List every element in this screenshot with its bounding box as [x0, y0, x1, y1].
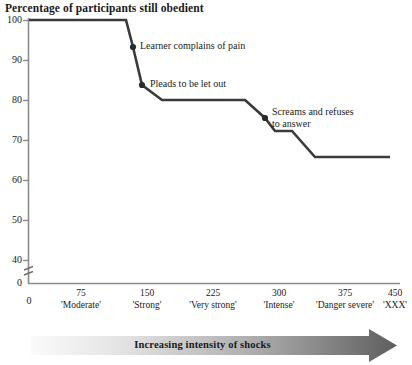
y-tick-label-50: 50	[0, 215, 22, 225]
y-tick-label-90: 90	[0, 55, 22, 65]
x-axis-origin-label: 0	[18, 296, 40, 306]
data-marker-pleads-to-be-let-out	[139, 82, 145, 88]
y-tick-label-80: 80	[0, 95, 22, 105]
x-tick-group-225: 225 'Very strong'	[178, 288, 248, 311]
x-tick-value-225: 225	[178, 288, 248, 300]
intensity-arrow-banner	[31, 329, 397, 362]
x-tick-name-intense: 'Intense'	[244, 300, 314, 312]
x-tick-group-300: 300 'Intense'	[244, 288, 314, 311]
data-marker-screams-and-refuses	[262, 115, 268, 121]
x-tick-name-xxx: 'XXX'	[360, 300, 412, 312]
x-tick-value-150: 150	[112, 288, 182, 300]
x-tick-group-150: 150 'Strong'	[112, 288, 182, 311]
x-tick-value-450: 450	[360, 288, 412, 300]
x-tick-name-very-strong: 'Very strong'	[178, 300, 248, 312]
x-tick-name-strong: 'Strong'	[112, 300, 182, 312]
y-tick-label-100: 100	[0, 15, 22, 25]
y-tick-label-40: 40	[0, 255, 22, 265]
y-tick-label-60: 60	[0, 175, 22, 185]
y-tick-label-70: 70	[0, 135, 22, 145]
x-tick-value-75: 75	[46, 288, 116, 300]
data-marker-learner-complains	[130, 44, 136, 50]
x-tick-value-300: 300	[244, 288, 314, 300]
annotation-screams-and-refuses-to-answer: Screams and refuses to answer	[272, 106, 354, 129]
annotation-pleads-to-be-let-out: Pleads to be let out	[150, 78, 226, 90]
annotation-learner-complains-of-pain: Learner complains of pain	[140, 40, 245, 52]
x-tick-group-450: 450 'XXX'	[360, 288, 412, 311]
y-axis-ticks	[23, 21, 29, 261]
x-tick-group-75: 75 'Moderate'	[46, 288, 116, 311]
x-tick-name-moderate: 'Moderate'	[46, 300, 116, 312]
y-tick-label-0: 0	[0, 278, 22, 288]
